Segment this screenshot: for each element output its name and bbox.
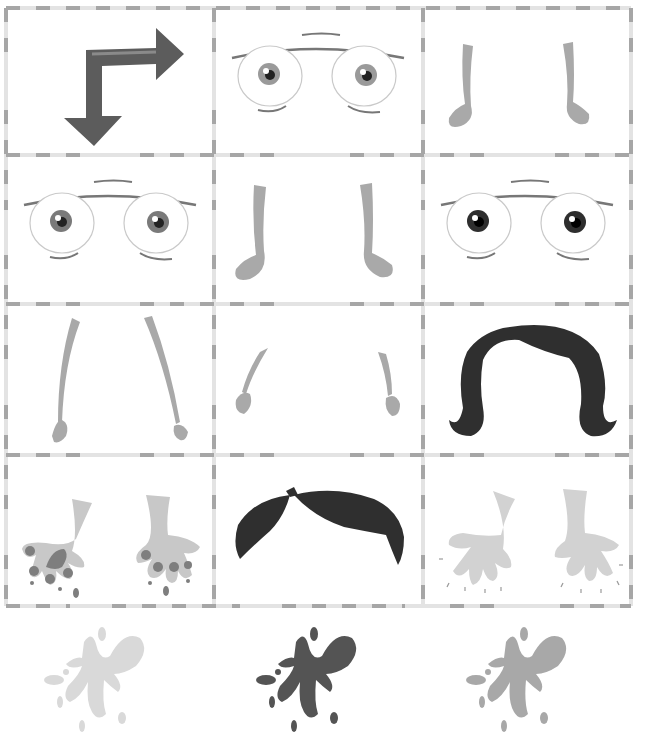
legs-icon [423,8,631,155]
legs-cell-top[interactable] [423,8,631,155]
paint-hands-icon [6,455,214,606]
eyes-black-icon [423,155,631,304]
eyes-cell-grey[interactable] [214,8,423,155]
long-arms-icon [6,304,214,455]
paint-hands-cell[interactable] [6,455,214,606]
turn-arrow-cell[interactable] [6,8,214,155]
medium-splat-icon [462,622,582,732]
dark-splat-icon [252,622,372,732]
dark-paint-splat[interactable] [252,622,372,732]
turn-arrow-icon [6,8,214,155]
cutout-sheet [0,0,648,750]
short-arms-icon [214,304,423,455]
eyes-grey-icon [214,8,423,155]
legs-cell-middle[interactable] [214,155,423,304]
light-splat-icon [40,622,160,732]
long-hair-cell[interactable] [423,304,631,455]
short-hair-cell[interactable] [214,455,423,606]
long-arms-cell[interactable] [6,304,214,455]
eyes-dark-grey-icon [6,155,214,304]
short-arms-cell[interactable] [214,304,423,455]
legs-icon-2 [214,155,423,304]
medium-paint-splat[interactable] [462,622,582,732]
short-hair-icon [214,455,423,606]
eyes-cell-dark-grey[interactable] [6,155,214,304]
clean-hands-cell[interactable] [423,455,631,606]
light-paint-splat[interactable] [40,622,160,732]
clean-hands-icon [423,455,631,606]
eyes-cell-black[interactable] [423,155,631,304]
long-hair-icon [423,304,631,455]
